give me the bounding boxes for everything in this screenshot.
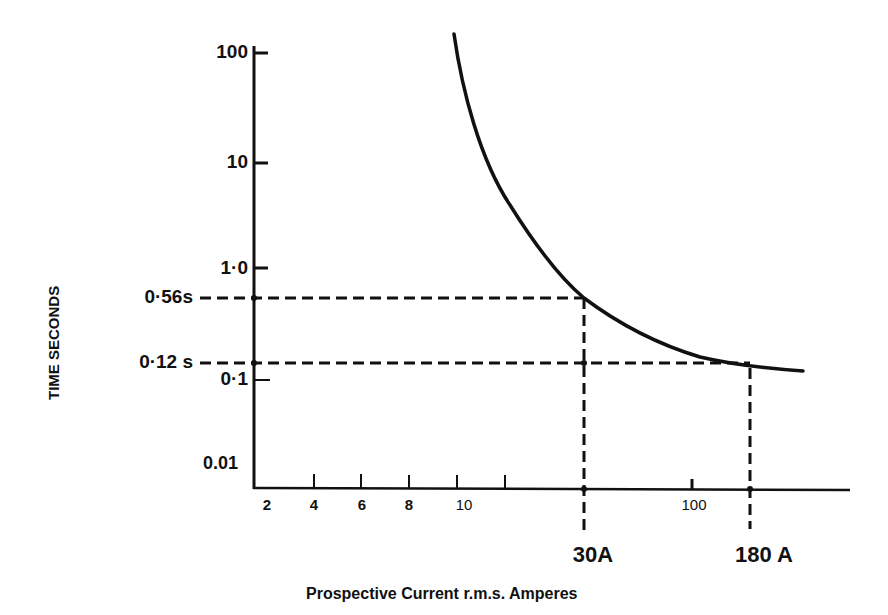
y-tick-label-1: 1·0 — [168, 257, 248, 279]
guide-lines — [200, 298, 750, 532]
x-tick-label-100: 100 — [681, 496, 706, 513]
y-ticks — [254, 53, 270, 380]
annotation-180a: 180 A — [735, 542, 793, 568]
x-tick-label-4: 4 — [310, 496, 318, 513]
intersection-dots — [251, 295, 753, 492]
x-tick-label-10: 10 — [456, 496, 473, 513]
annotation-30a: 30A — [573, 542, 613, 568]
y-tick-label-100: 100 — [168, 41, 248, 63]
x-tick-label-2: 2 — [263, 496, 271, 513]
x-axis — [253, 488, 850, 490]
x-tick-label-6: 6 — [358, 496, 366, 513]
y-tick-label-01: 0·1 — [168, 368, 248, 390]
x-ticks — [314, 474, 692, 489]
x-axis-title: Prospective Current r.m.s. Amperes — [306, 585, 578, 603]
characteristic-curve — [454, 34, 803, 371]
y-tick-label-10: 10 — [168, 151, 248, 173]
annotation-056s: 0·56s — [113, 286, 193, 308]
y-tick-label-001: 0.01 — [158, 453, 238, 474]
x-tick-label-8: 8 — [405, 496, 413, 513]
y-axis-title: TIME SECONDS — [45, 286, 62, 400]
